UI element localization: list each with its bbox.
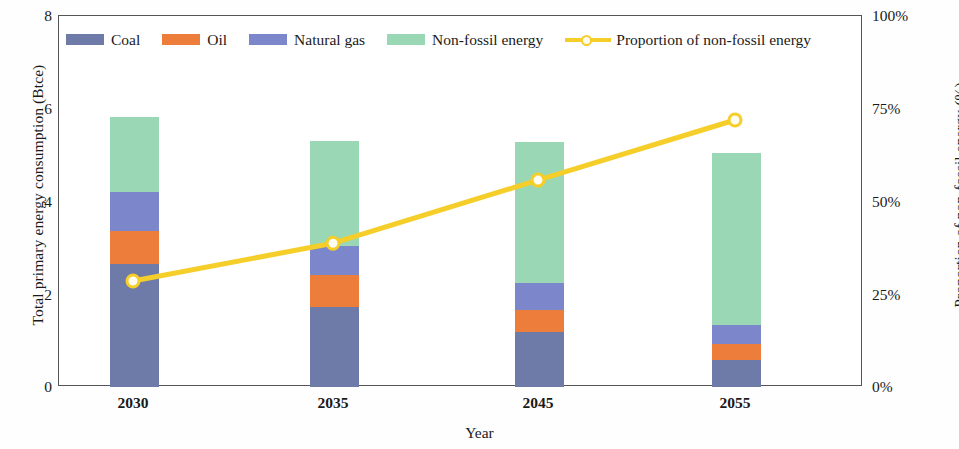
bar-segment-oil-2045 [515,310,564,332]
legend-item-non-fossil-energy[interactable]: Non-fossil energy [387,32,543,48]
x-tick-label-2045: 2045 [483,394,593,412]
x-tick-label-2055: 2055 [680,394,790,412]
legend-item-coal[interactable]: Coal [66,32,140,48]
legend-item-proportion-line[interactable]: Proportion of non-fossil energy [565,32,811,48]
bar-segment-oil-2030 [110,231,159,264]
bar-segment-natural-gas-2030 [110,192,159,231]
legend: Coal Oil Natural gas Non-fossil energy P… [66,32,833,48]
y-axis-title-right: Proportion of non-fossil energy (%) [951,25,959,365]
x-axis-title: Year [0,424,959,442]
bar-segment-non-fossil-energy-2030 [110,117,159,192]
bar-segment-natural-gas-2055 [712,325,761,344]
legend-label-proportion: Proportion of non-fossil energy [616,32,811,48]
x-tick-label-2030: 2030 [78,394,188,412]
legend-swatch-oil [162,34,200,45]
bar-segment-oil-2035 [310,275,359,307]
legend-item-natural-gas[interactable]: Natural gas [249,32,365,48]
bar-segment-non-fossil-energy-2035 [310,141,359,246]
bar-segment-non-fossil-energy-2055 [712,153,761,326]
y-tick-label-4: 4 [6,194,52,210]
y2-tick-label-75: 75% [872,101,928,117]
y-tick-label-2: 2 [6,287,52,303]
y-tick-label-8: 8 [6,8,52,24]
legend-swatch-coal [66,34,104,45]
y2-tick-label-100: 100% [872,8,928,24]
stacked-bar-chart: Total primary energy consumption (Btce) … [0,0,959,449]
bar-segment-coal-2035 [310,307,359,387]
y-tick-label-6: 6 [6,101,52,117]
legend-label-non-fossil-energy: Non-fossil energy [432,32,543,48]
bar-segment-oil-2055 [712,344,761,359]
legend-label-coal: Coal [111,32,140,48]
y-tick-label-0: 0 [6,379,52,395]
legend-label-natural-gas: Natural gas [294,32,365,48]
bar-segment-coal-2030 [110,264,159,387]
y2-tick-label-50: 50% [872,194,928,210]
legend-swatch-non-fossil-energy [387,34,425,45]
bar-segment-coal-2055 [712,360,761,387]
plot-area [58,15,862,386]
legend-line-marker-icon [565,34,611,46]
y2-tick-label-25: 25% [872,287,928,303]
x-tick-label-2035: 2035 [278,394,388,412]
bar-segment-non-fossil-energy-2045 [515,142,564,283]
bar-segment-natural-gas-2035 [310,246,359,275]
bar-segment-coal-2045 [515,332,564,387]
y2-tick-label-0: 0% [872,379,928,395]
legend-swatch-natural-gas [249,34,287,45]
legend-label-oil: Oil [207,32,227,48]
legend-item-oil[interactable]: Oil [162,32,227,48]
bar-segment-natural-gas-2045 [515,283,564,310]
